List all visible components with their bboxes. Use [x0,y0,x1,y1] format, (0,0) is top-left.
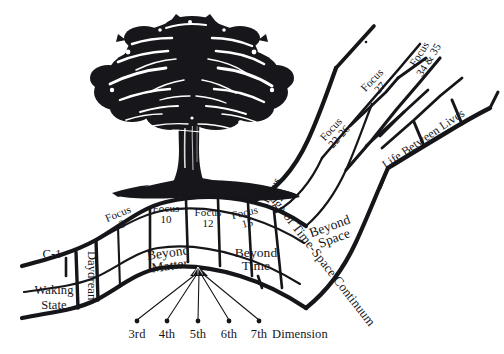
dimension-tick-dots [135,319,262,324]
oak-tree-woodcut [90,14,300,200]
band-ribbon [22,197,306,318]
upper-right-lattice [322,26,462,170]
consciousness-map-svg [0,0,504,354]
diagram-canvas: C-1 Waking State Daydream Focus 3 Focus … [0,0,504,354]
